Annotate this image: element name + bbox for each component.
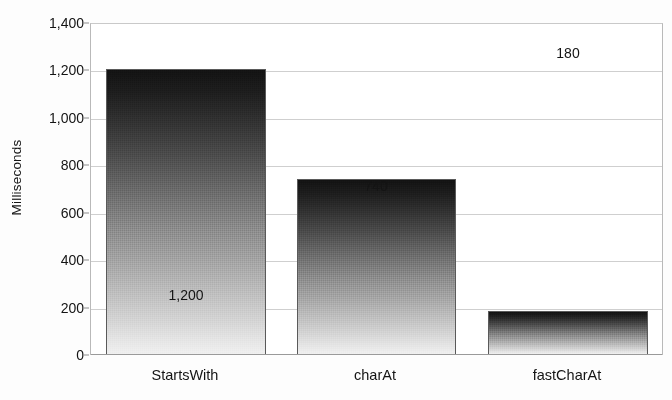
y-tick-label: 1,000	[24, 110, 84, 126]
y-tick-mark	[84, 23, 89, 24]
y-tick-label: 400	[24, 252, 84, 268]
bar-value-label: 740	[364, 178, 387, 194]
y-tick-label: 600	[24, 205, 84, 221]
y-tick-mark	[84, 260, 89, 261]
y-tick-label: 1,200	[24, 62, 84, 78]
bar-value-label: 1,200	[168, 287, 203, 303]
y-tick-label: 200	[24, 300, 84, 316]
bar-charat	[297, 179, 456, 355]
y-tick-label: 800	[24, 157, 84, 173]
y-axis-tick-labels: 0 200 400 600 800 1,000 1,200 1,400	[22, 0, 84, 400]
y-tick-mark	[84, 212, 89, 213]
x-axis-label-startswith: StartsWith	[152, 367, 219, 383]
bar-fastcharat	[488, 311, 648, 354]
y-tick-mark	[84, 307, 89, 308]
y-tick-mark	[84, 70, 89, 71]
y-tick-mark	[84, 165, 89, 166]
bar-value-label: 180	[556, 45, 579, 61]
plot-area: 1,200 740 180	[90, 23, 663, 355]
bar-chart: Milliseconds 0 200 400 600 800 1,000 1,2…	[0, 0, 672, 400]
axis-baseline	[91, 354, 662, 355]
y-tick-mark	[84, 355, 89, 356]
y-tick-label: 1,400	[24, 15, 84, 31]
x-axis-label-charat: charAt	[354, 367, 396, 383]
y-tick-mark	[84, 117, 89, 118]
x-axis-label-fastcharat: fastCharAt	[533, 367, 602, 383]
bar-startswith	[106, 69, 266, 354]
y-tick-label: 0	[24, 347, 84, 363]
